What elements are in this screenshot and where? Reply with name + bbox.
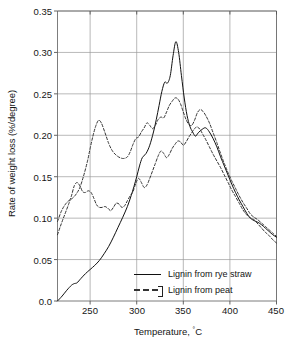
chart-figure: Rate of weight loss (%/degree) 0.35 0.30… xyxy=(0,0,288,342)
gridlines xyxy=(58,11,277,301)
legend-item-rye-straw: Lignin from rye straw xyxy=(133,266,252,282)
legend-label: Lignin from peat xyxy=(168,285,233,296)
legend-label: Lignin from rye straw xyxy=(168,269,252,280)
legend-dashed-line-icon xyxy=(133,285,163,295)
legend: Lignin from rye straw Lignin from peat xyxy=(133,266,252,298)
legend-item-peat: Lignin from peat xyxy=(133,282,252,298)
tick-marks xyxy=(54,11,277,305)
legend-solid-line-icon xyxy=(133,269,163,279)
